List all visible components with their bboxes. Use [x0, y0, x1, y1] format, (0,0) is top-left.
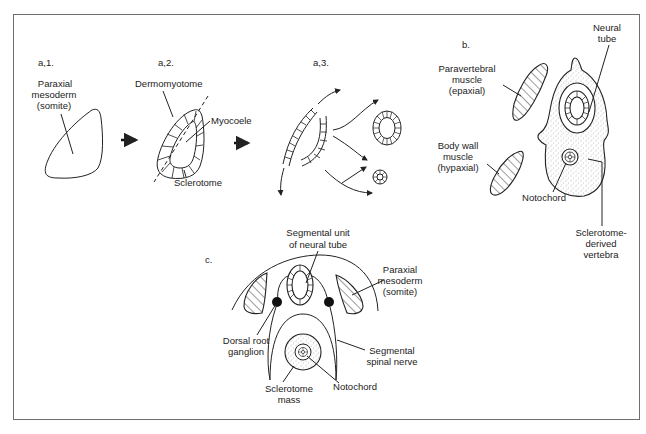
figure: a,1. Paraxial mesoderm (somite) a,2. Der…	[0, 0, 646, 434]
figure-frame	[13, 14, 640, 420]
